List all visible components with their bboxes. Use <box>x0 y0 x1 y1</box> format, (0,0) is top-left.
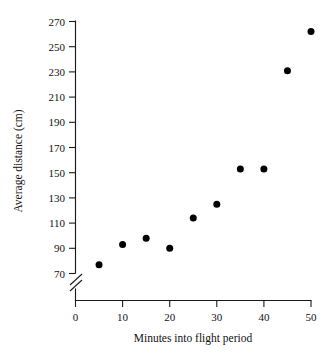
data-point <box>166 245 173 252</box>
y-tick-label: 170 <box>49 142 66 154</box>
y-tick-label: 210 <box>49 91 66 103</box>
y-tick-label: 70 <box>54 268 66 280</box>
chart-canvas: 270 250 230 210 190 170 150 130 110 90 7… <box>0 0 335 355</box>
x-axis-ticks <box>76 301 312 308</box>
y-tick-label: 110 <box>49 217 66 229</box>
data-point <box>260 165 267 172</box>
y-tick-label: 250 <box>49 41 66 53</box>
y-tick-label: 230 <box>49 66 66 78</box>
data-point <box>237 165 244 172</box>
data-point <box>119 241 126 248</box>
x-tick-label: 10 <box>117 311 129 323</box>
data-point <box>190 215 197 222</box>
x-tick-label: 40 <box>258 311 270 323</box>
x-tick-label: 20 <box>164 311 176 323</box>
data-point <box>308 28 315 35</box>
data-point <box>96 261 103 268</box>
y-tick-label: 150 <box>49 167 66 179</box>
data-point <box>143 235 150 242</box>
x-axis-title: Minutes into flight period <box>134 332 253 345</box>
y-axis-tick-labels: 270 250 230 210 190 170 150 130 110 90 7… <box>49 16 66 280</box>
scatter-chart: 270 250 230 210 190 170 150 130 110 90 7… <box>0 0 335 355</box>
y-tick-label: 270 <box>49 16 66 28</box>
y-axis-title: Average distance (cm) <box>12 109 25 212</box>
axes <box>76 21 312 301</box>
x-tick-label: 30 <box>211 311 223 323</box>
data-point <box>284 67 291 74</box>
data-point <box>213 201 220 208</box>
data-points-layer <box>96 28 315 268</box>
x-tick-label: 50 <box>306 311 318 323</box>
y-tick-label: 190 <box>49 116 66 128</box>
y-tick-label: 130 <box>49 192 66 204</box>
y-tick-label: 90 <box>54 242 66 254</box>
x-axis-tick-labels: 0 10 20 30 40 50 <box>73 311 317 323</box>
y-axis-ticks <box>69 22 76 274</box>
x-tick-label: 0 <box>73 311 79 323</box>
